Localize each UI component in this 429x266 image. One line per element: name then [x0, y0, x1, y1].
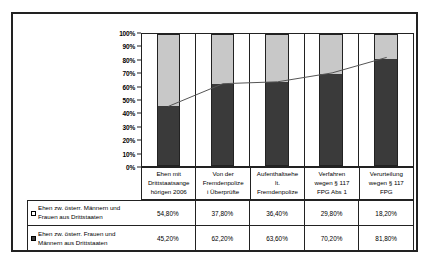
category-label-line: i Überprüfte [203, 188, 244, 197]
overlay-line [141, 33, 414, 167]
legend-label-line: Ehen zw. österr. Frauen und [38, 230, 115, 239]
y-tick-label: 30% [123, 123, 135, 130]
value-cell-r1-c1: 54,80% [141, 200, 196, 226]
y-tick-label: 90% [123, 43, 135, 50]
chart-frame: 100%90%80%70%60%50%40%30%20%10%0% Ehen m… [11, 12, 418, 252]
y-tick-label: 80% [123, 56, 135, 63]
y-tick-label: 60% [123, 83, 135, 90]
category-label-line: Verurteilung [369, 170, 404, 179]
legend-cell[interactable]: Ehen zw. österr. Männern undFrauen aus D… [27, 200, 141, 226]
y-tick-label: 40% [123, 110, 135, 117]
value-cell-r2-c1: 45,20% [141, 226, 196, 252]
legend-cell[interactable]: Ehen zw. österr. Frauen undMännern aus D… [27, 226, 141, 252]
plot-area [141, 33, 414, 167]
category-label-line: Ehen mit [148, 170, 190, 179]
category-label-line: lt. [257, 179, 298, 188]
legend-value-table: Ehen zw. österr. Männern undFrauen aus D… [27, 200, 414, 252]
y-tick-label: 50% [123, 97, 135, 104]
category-label-line: Fremdenpolize [257, 188, 298, 197]
value-cell-r2-c4: 70,20% [305, 226, 360, 252]
y-tick-label: 20% [123, 137, 135, 144]
y-axis: 100%90%80%70%60%50%40%30%20%10%0% [97, 33, 141, 167]
category-label-line: Drittstaatsange [148, 179, 190, 188]
y-tick-label: 0% [126, 164, 135, 171]
value-cell-r1-c3: 36,40% [250, 200, 305, 226]
category-label-line: wegen § 117 [369, 179, 404, 188]
category-label-line: Verfahren [314, 170, 349, 179]
category-label-line: wegen § 117 [314, 179, 349, 188]
category-header-row: Ehen mitDrittstaatsangehörigen 2006Von d… [141, 167, 414, 200]
category-label-1: Ehen mitDrittstaatsangehörigen 2006 [141, 167, 196, 200]
category-label-3: Aufenthaltsehelt.Fremdenpolize [251, 167, 305, 200]
legend-label-line: Männern aus Drittstaaten [38, 239, 115, 248]
legend-label-line: Ehen zw. österr. Männern und [38, 204, 120, 213]
table-row: Ehen zw. österr. Männern undFrauen aus D… [27, 200, 414, 226]
table-row: Ehen zw. österr. Frauen undMännern aus D… [27, 226, 414, 252]
value-cell-r1-c4: 29,80% [305, 200, 360, 226]
light-swatch-icon [31, 211, 36, 216]
y-tick-label: 100% [119, 30, 135, 37]
category-label-4: Verfahrenwegen § 117FPG Abs 1 [305, 167, 359, 200]
value-cell-r2-c3: 63,60% [250, 226, 305, 252]
value-cell-r2-c5: 81,80% [359, 226, 414, 252]
category-label-line: Fremdenpolize [203, 179, 244, 188]
category-label-line: Aufenthaltsehe [257, 170, 298, 179]
category-label-line: FPG [369, 188, 404, 197]
dark-swatch-icon [31, 236, 36, 241]
category-label-line: Von der [203, 170, 244, 179]
category-label-line: hörigen 2006 [148, 188, 190, 197]
legend-label-line: Frauen aus Drittstaaten [38, 213, 120, 222]
y-tick-label: 70% [123, 70, 135, 77]
category-label-line: FPG Abs 1 [314, 188, 349, 197]
y-tick-label: 10% [123, 150, 135, 157]
value-cell-r1-c2: 37,80% [196, 200, 251, 226]
value-cell-r2-c2: 62,20% [196, 226, 251, 252]
category-label-5: Verurteilungwegen § 117FPG [360, 167, 414, 200]
value-cell-r1-c5: 18,20% [359, 200, 414, 226]
category-label-2: Von derFremdenpolizei Überprüfte [196, 167, 250, 200]
